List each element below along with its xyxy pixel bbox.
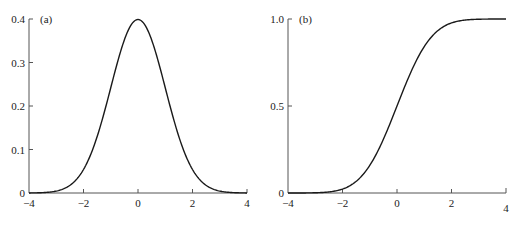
panel-b-xtick-neg2: −2 (337, 197, 349, 209)
panel-b-xtick-4: 4 (503, 202, 509, 214)
panel-a-ytick-0.4: 0.4 (11, 13, 25, 25)
panel-b: 1.0 0.5 0 −4 −2 0 2 4 (b) (270, 13, 509, 214)
panel-a-xtick-4: 4 (244, 197, 250, 209)
panel-b-xtick-0: 0 (394, 197, 400, 209)
panel-a-xtick-2: 2 (190, 197, 196, 209)
panel-a: 0.4 0.3 0.2 0.1 0 −4 −2 0 2 4 (a) (11, 13, 250, 209)
figure: 0.4 0.3 0.2 0.1 0 −4 −2 0 2 4 (a) 1.0 0.… (0, 0, 521, 225)
panel-a-xtick-0: 0 (135, 197, 141, 209)
panel-b-ytick-0.5: 0.5 (270, 100, 284, 112)
panel-b-xtick-neg4: −4 (282, 197, 294, 209)
panel-b-label: (b) (299, 13, 312, 26)
panel-a-xtick-neg2: −2 (78, 197, 90, 209)
panel-b-xtick-2: 2 (449, 197, 455, 209)
panel-a-y-ticks (29, 19, 33, 150)
cdf-curve (288, 19, 506, 193)
panel-b-y-ticks (288, 19, 292, 106)
panel-b-ytick-1.0: 1.0 (270, 13, 284, 25)
panel-a-ytick-0.3: 0.3 (11, 57, 25, 69)
panel-b-x-ticks (343, 188, 507, 193)
panel-a-xtick-neg4: −4 (23, 197, 35, 209)
panel-a-ytick-0.2: 0.2 (11, 100, 25, 112)
panel-a-ytick-0.1: 0.1 (11, 144, 25, 156)
panel-a-label: (a) (40, 13, 53, 26)
pdf-curve (29, 19, 247, 192)
